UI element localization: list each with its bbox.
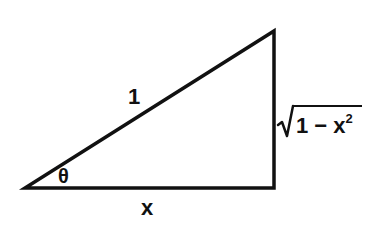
radical-sign <box>278 106 293 136</box>
opposite-side-label: 1 − x2 <box>296 112 353 137</box>
angle-theta-label: θ <box>58 166 69 186</box>
opposite-radicand: 1 − x <box>296 113 346 138</box>
hypotenuse-label: 1 <box>128 86 140 108</box>
adjacent-side-label: x <box>141 197 153 219</box>
opposite-exponent: 2 <box>346 111 353 126</box>
